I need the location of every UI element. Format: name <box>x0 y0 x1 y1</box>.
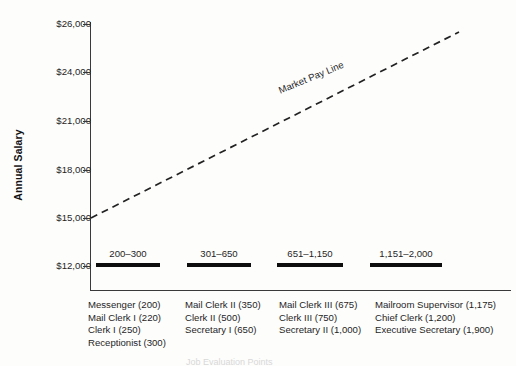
grade-bar <box>96 263 160 267</box>
job-list-item: Executive Secretary (1,900) <box>375 324 496 337</box>
y-tick-15000: $15,000 <box>0 212 91 224</box>
y-tick-mark <box>83 218 91 219</box>
x-axis-line <box>90 290 511 291</box>
job-list-item: Receptionist (300) <box>88 337 166 350</box>
grade-bar <box>370 263 442 267</box>
job-list-item: Secretary II (1,000) <box>279 324 361 337</box>
job-list-item: Messenger (200) <box>88 299 166 312</box>
job-column-3: Mail Clerk III (675) Clerk III (750) Sec… <box>279 299 361 337</box>
y-tick-label: $24,000 <box>31 66 91 77</box>
job-list-item: Clerk I (250) <box>88 324 166 337</box>
job-list-item: Mail Clerk II (350) <box>185 299 261 312</box>
grade-range-label: 651–1,150 <box>277 248 343 260</box>
y-tick-label: $21,000 <box>31 115 91 126</box>
job-list-item: Secretary I (650) <box>185 324 261 337</box>
grade-bar-group-1: 200–300 <box>96 248 160 267</box>
grade-bar-group-4: 1,151–2,000 <box>370 248 442 267</box>
y-tick-mark <box>83 72 91 73</box>
job-column-1: Messenger (200) Mail Clerk I (220) Clerk… <box>88 299 166 349</box>
y-axis-line <box>90 22 91 291</box>
market-pay-line-label: Market Pay Line <box>277 59 345 96</box>
grade-bar-group-3: 651–1,150 <box>277 248 343 267</box>
chart-canvas: Annual Salary $26,000 $24,000 $21,000 $1… <box>0 0 516 366</box>
y-tick-mark <box>83 24 91 25</box>
cut-off-caption: Job Evaluation Points <box>186 357 273 366</box>
y-tick-label: $26,000 <box>31 18 91 29</box>
y-tick-21000: $21,000 <box>0 115 91 127</box>
y-tick-mark <box>83 266 91 267</box>
y-tick-18000: $18,000 <box>0 164 91 176</box>
job-list-item: Mailroom Supervisor (1,175) <box>375 299 496 312</box>
grade-range-label: 200–300 <box>96 248 160 260</box>
y-tick-24000: $24,000 <box>0 66 91 78</box>
job-column-4: Mailroom Supervisor (1,175) Chief Clerk … <box>375 299 496 337</box>
grade-bar-group-2: 301–650 <box>187 248 251 267</box>
y-tick-mark <box>83 121 91 122</box>
job-list-item: Chief Clerk (1,200) <box>375 312 496 325</box>
y-tick-label: $12,000 <box>31 260 91 271</box>
job-list-item: Mail Clerk I (220) <box>88 312 166 325</box>
y-tick-label: $18,000 <box>31 164 91 175</box>
grade-bar <box>277 263 343 267</box>
y-tick-12000: $12,000 <box>0 260 91 272</box>
y-tick-26000: $26,000 <box>0 18 91 30</box>
grade-range-label: 1,151–2,000 <box>370 248 442 260</box>
job-list-item: Mail Clerk III (675) <box>279 299 361 312</box>
job-list-item: Clerk II (500) <box>185 312 261 325</box>
y-tick-label: $15,000 <box>31 212 91 223</box>
grade-bar <box>187 263 251 267</box>
job-column-2: Mail Clerk II (350) Clerk II (500) Secre… <box>185 299 261 337</box>
y-tick-mark <box>83 170 91 171</box>
job-list-item: Clerk III (750) <box>279 312 361 325</box>
grade-range-label: 301–650 <box>187 248 251 260</box>
